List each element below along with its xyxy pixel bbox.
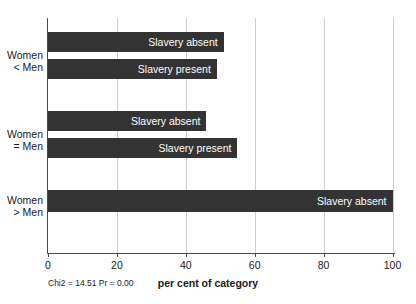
gridline-80 xyxy=(324,18,325,253)
x-tick-40 xyxy=(186,253,187,257)
plot-area xyxy=(48,18,393,253)
gridline-60 xyxy=(255,18,256,253)
x-tick-label-80: 80 xyxy=(318,259,330,271)
bar-chart: 0 20 40 60 80 100 Women < Men Women = Me… xyxy=(0,0,416,304)
bar-label: Slavery absent xyxy=(317,196,386,207)
x-axis-line xyxy=(47,253,395,254)
x-tick-label-60: 60 xyxy=(249,259,261,271)
bar-label: Slavery absent xyxy=(131,116,200,127)
chi-square-annotation: Chi2 = 14.51 Pr = 0.00 xyxy=(48,278,134,288)
bar-women-equal-men-slavery-absent: Slavery absent xyxy=(48,111,206,131)
category-label-women-less-men: Women < Men xyxy=(7,50,43,73)
bar-women-greater-men-slavery-absent: Slavery absent xyxy=(48,190,393,212)
bar-label: Slavery present xyxy=(138,64,211,75)
bar-women-equal-men-slavery-present: Slavery present xyxy=(48,138,237,158)
x-tick-80 xyxy=(324,253,325,257)
x-tick-label-100: 100 xyxy=(384,259,402,271)
x-tick-label-20: 20 xyxy=(111,259,123,271)
x-tick-0 xyxy=(48,253,49,257)
bar-women-less-men-slavery-absent: Slavery absent xyxy=(48,32,224,52)
gridline-20 xyxy=(117,18,118,253)
gridline-100 xyxy=(393,18,394,253)
x-tick-20 xyxy=(117,253,118,257)
category-label-women-greater-men: Women > Men xyxy=(7,195,43,218)
x-tick-60 xyxy=(255,253,256,257)
bar-women-less-men-slavery-present: Slavery present xyxy=(48,59,217,79)
x-tick-label-0: 0 xyxy=(45,259,51,271)
bar-label: Slavery absent xyxy=(148,37,217,48)
x-tick-label-40: 40 xyxy=(180,259,192,271)
y-axis-line xyxy=(47,18,48,253)
x-tick-100 xyxy=(393,253,394,257)
category-label-women-equal-men: Women = Men xyxy=(7,129,43,152)
gridline-40 xyxy=(186,18,187,253)
bar-label: Slavery present xyxy=(159,143,232,154)
